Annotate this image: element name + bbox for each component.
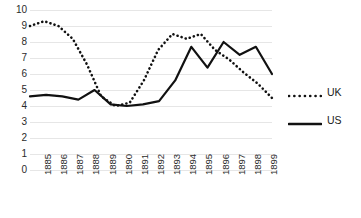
x-tick-label: 1893	[172, 154, 182, 175]
legend-swatch-solid	[288, 115, 322, 125]
x-tick-label: 1887	[75, 154, 85, 175]
x-tick-label: 1896	[221, 154, 231, 175]
legend-swatch-dotted	[288, 87, 322, 97]
x-tick-label: 1885	[43, 154, 53, 175]
x-tick-label: 1897	[237, 154, 247, 175]
legend-item-us[interactable]: US	[288, 106, 361, 134]
legend-label: US	[327, 115, 342, 126]
chart-legend: UKUS	[288, 78, 361, 134]
x-tick-label: 1895	[204, 154, 214, 175]
x-tick-label: 1894	[188, 154, 198, 175]
line-chart: 109876543210 188518861887188818891890189…	[0, 0, 361, 218]
legend-label: UK	[327, 87, 342, 98]
x-tick-label: 1899	[269, 154, 279, 175]
x-tick-label: 1892	[156, 154, 166, 175]
x-tick-label: 1888	[91, 154, 101, 175]
x-tick-label: 1886	[59, 154, 69, 175]
x-tick-label: 1889	[108, 154, 118, 175]
x-tick-label: 1890	[124, 154, 134, 175]
x-tick-label: 1891	[140, 154, 150, 175]
legend-item-uk[interactable]: UK	[288, 78, 361, 106]
x-tick-label: 1898	[253, 154, 263, 175]
